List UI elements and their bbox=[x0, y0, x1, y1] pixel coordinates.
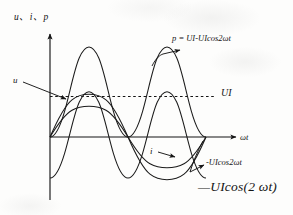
axis-group bbox=[50, 34, 236, 200]
label-ui-level: UI bbox=[221, 88, 232, 98]
leader-p-arrow bbox=[163, 50, 180, 54]
y-axis-label: u、i、p bbox=[14, 13, 49, 23]
leader-u-arrow bbox=[23, 82, 66, 99]
caption-neg-ui-cos-2wt: —UIcos(2 ωt) bbox=[198, 180, 277, 194]
figure-canvas: u、i、p p = UI-UIcos2ωt UI u ωt i -UIcos2ω… bbox=[0, 0, 293, 215]
curve-p bbox=[50, 47, 206, 137]
leader-p-hook bbox=[152, 54, 163, 66]
label-neg-ui-cos2wt: -UIcos2ωt bbox=[206, 158, 242, 167]
label-u-curve: u bbox=[13, 76, 18, 85]
leader-i-arrow bbox=[158, 152, 175, 157]
label-i-curve: i bbox=[150, 147, 153, 156]
label-p-equation: p = UI-UIcos2ωt bbox=[172, 34, 231, 43]
x-axis-label: ωt bbox=[240, 133, 248, 142]
